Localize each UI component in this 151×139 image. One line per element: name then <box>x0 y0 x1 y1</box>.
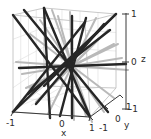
x-tick-label-1: 1 <box>89 123 95 133</box>
y-axis-label: y <box>124 120 130 130</box>
y-tick-label-1: 1 <box>126 102 132 112</box>
z-tick-label-1: 1 <box>131 9 137 19</box>
x-tick-label-neg1: -1 <box>6 118 15 128</box>
z-axis-spine <box>122 13 129 110</box>
x-axis-label: x <box>61 128 67 138</box>
z-tick-label-0: 0 <box>131 57 137 67</box>
plot-3d-axes: 1 0 -1 z -1 0 1 x -1 0 1 y <box>0 0 151 139</box>
figure-canvas: 1 0 -1 z -1 0 1 x -1 0 1 y <box>0 0 151 139</box>
y-tick-label-0: 0 <box>115 114 121 124</box>
z-axis-label: z <box>141 54 146 64</box>
y-tick-label-neg1: -1 <box>99 123 108 133</box>
